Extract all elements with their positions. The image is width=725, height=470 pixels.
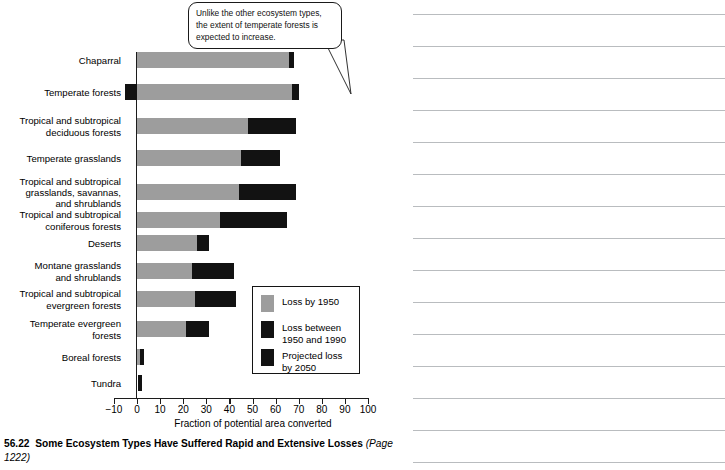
note-rule-line: [413, 174, 725, 175]
x-axis-tick-label: 90: [339, 404, 350, 415]
x-axis-tick-label: 100: [360, 404, 377, 415]
x-axis-title: Fraction of potential area converted: [137, 418, 369, 429]
legend-label: Loss by 1950: [282, 295, 339, 308]
bar-segment: [137, 184, 239, 200]
note-rule-line: [413, 142, 725, 143]
bar-segment: [248, 118, 297, 134]
chart-legend: Loss by 1950Loss between 1950 and 1990Pr…: [252, 286, 360, 374]
note-rule-line: [413, 366, 725, 367]
note-rule-line: [413, 238, 725, 239]
legend-swatch: [261, 295, 274, 312]
bar-segment: [241, 150, 280, 166]
category-label: Tundra: [0, 378, 121, 389]
callout-text: Unlike the other ecosystem types, the ex…: [196, 8, 322, 42]
bar-segment: [186, 321, 209, 337]
x-axis-tick-label: 80: [316, 404, 327, 415]
x-axis-tick-label: 40: [224, 404, 235, 415]
bar-segment: [125, 84, 137, 100]
category-label: Montane grasslands and shrublands: [0, 260, 121, 283]
legend-item: Projected loss by 2050: [261, 349, 342, 373]
bar-segment: [137, 212, 220, 228]
category-label: Temperate evergreen forests: [0, 318, 121, 341]
note-rule-line: [413, 334, 725, 335]
x-axis-tick-label: 30: [201, 404, 212, 415]
bar-segment: [137, 52, 289, 68]
note-rule-line: [413, 110, 725, 111]
caption-number: 56.22: [4, 438, 30, 449]
bar-segment: [140, 349, 143, 365]
chart-plot-area: −100102030405060708090100 ChaparralTempe…: [0, 0, 413, 470]
x-axis-tick-label: 10: [155, 404, 166, 415]
note-rule-line: [413, 398, 725, 399]
x-axis-tick-label: 60: [270, 404, 281, 415]
legend-item: Loss between 1950 and 1990: [261, 321, 346, 345]
notes-ruled-area: [413, 0, 725, 470]
x-axis-tick-label: 70: [293, 404, 304, 415]
bar-segment: [197, 235, 209, 251]
x-axis-tick-label: 0: [134, 404, 140, 415]
bar-segment: [138, 375, 141, 391]
category-label: Tropical and subtropical coniferous fore…: [0, 209, 121, 232]
note-rule-line: [413, 78, 725, 79]
category-label: Temperate forests: [0, 87, 121, 98]
note-rule-line: [413, 462, 725, 463]
bar-segment: [239, 184, 297, 200]
bar-segment: [137, 321, 186, 337]
bar-segment: [137, 150, 241, 166]
x-axis-tick-label: 50: [247, 404, 258, 415]
category-label: Boreal forests: [0, 352, 121, 363]
note-rule-line: [413, 430, 725, 431]
bar-segment: [192, 263, 234, 279]
callout-annotation: Unlike the other ecosystem types, the ex…: [188, 2, 342, 49]
legend-swatch: [261, 349, 274, 366]
category-label: Tropical and subtropical grasslands, sav…: [0, 176, 121, 210]
legend-swatch: [261, 321, 274, 338]
bar-segment: [137, 235, 197, 251]
bar-segment: [289, 52, 294, 68]
bar-segment: [137, 263, 192, 279]
category-label: Chaparral: [0, 55, 121, 66]
bar-segment: [292, 84, 299, 100]
bar-segment: [137, 291, 195, 307]
bar-segment: [137, 118, 248, 134]
note-rule-line: [413, 270, 725, 271]
caption-title: Some Ecosystem Types Have Suffered Rapid…: [35, 438, 363, 449]
category-label: Tropical and subtropical evergreen fores…: [0, 288, 121, 311]
legend-item: Loss by 1950: [261, 295, 339, 312]
figure-caption: 56.22 Some Ecosystem Types Have Suffered…: [4, 437, 404, 465]
note-rule-line: [413, 46, 725, 47]
x-axis-tick-label: 20: [178, 404, 189, 415]
legend-label: Projected loss by 2050: [282, 349, 342, 373]
note-rule-line: [413, 14, 725, 15]
category-label: Temperate grasslands: [0, 153, 121, 164]
category-label: Tropical and subtropical deciduous fores…: [0, 115, 121, 138]
figure-56-22: Unlike the other ecosystem types, the ex…: [0, 0, 413, 470]
bar-segment: [220, 212, 287, 228]
legend-label: Loss between 1950 and 1990: [282, 321, 346, 345]
note-rule-line: [413, 206, 725, 207]
bar-segment: [195, 291, 237, 307]
bar-segment: [137, 84, 292, 100]
category-label: Deserts: [0, 238, 121, 249]
note-rule-line: [413, 302, 725, 303]
x-axis-line: [114, 398, 369, 399]
x-axis-tick-label: −10: [105, 404, 122, 415]
